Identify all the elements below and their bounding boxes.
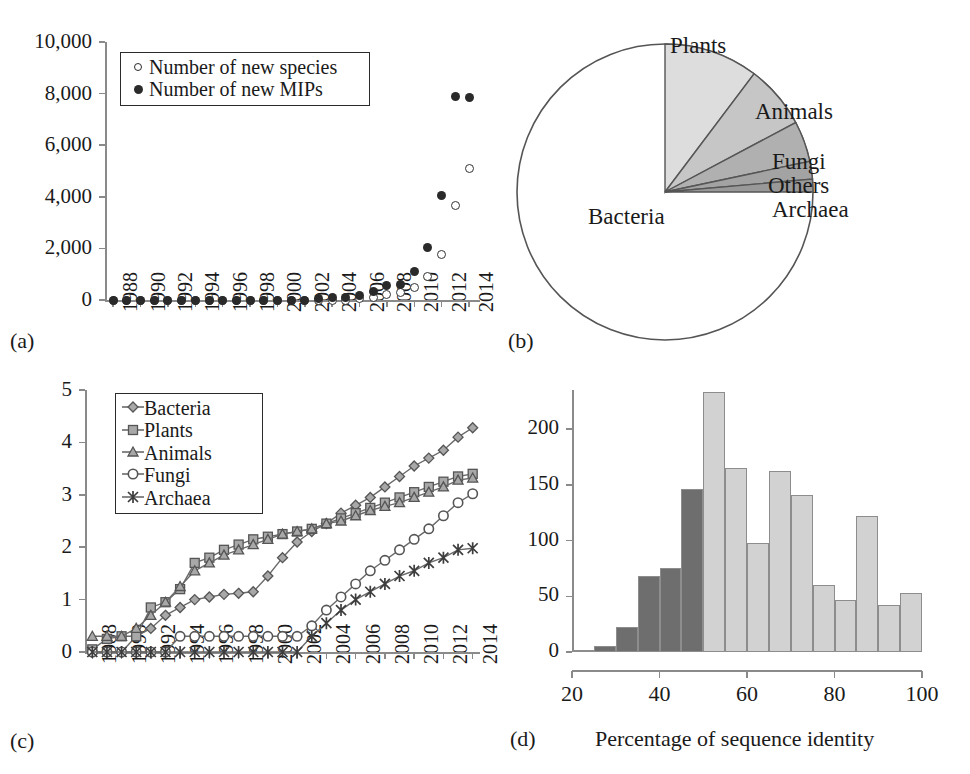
panel-a-point-mips: [341, 293, 350, 302]
panel-a-point-mips: [150, 296, 159, 305]
square-marker-glyph: [129, 425, 138, 434]
panel-a-point-mips: [369, 287, 378, 296]
panel-a-scatter: 02,0004,0006,0008,00010,000 198819901992…: [0, 0, 500, 370]
panel-a-point-mips: [109, 296, 118, 305]
panel-c-marker-bacteria: [424, 453, 434, 463]
panel-c-marker-fungi: [249, 632, 258, 641]
panel-c-legend: BacteriaPlantsAnimalsFungiArchaea: [115, 393, 263, 514]
panel-a-y-tick-label: 8,000: [0, 83, 92, 104]
panel-c-marker-fungi: [453, 498, 462, 507]
panel-c-marker-fungi: [307, 621, 316, 630]
panel-a-y-tick: [99, 144, 105, 146]
panel-a-point-species: [437, 250, 446, 259]
panel-a-point-mips: [205, 296, 214, 305]
panel-c-legend-label: Archaea: [144, 487, 211, 509]
panel-d-bar: [681, 489, 703, 652]
panel-c-marker-archaea: [365, 586, 375, 598]
panel-c-marker-archaea: [395, 570, 405, 582]
panel-a-point-mips: [259, 296, 268, 305]
panel-c-marker-bacteria: [468, 423, 478, 433]
panel-c-marker-archaea: [321, 617, 331, 629]
panel-c-marker-plants: [132, 632, 141, 641]
panel-a-point-mips: [465, 93, 474, 102]
panel-d-bar: [660, 568, 682, 652]
panel-a-y-tick-label: 6,000: [0, 134, 92, 155]
panel-c-legend-row: Bacteria: [122, 397, 254, 419]
panel-a-x-tick: [468, 301, 470, 307]
panel-c-marker-fungi: [205, 632, 214, 641]
panel-d-y-tick-label: 0: [500, 640, 559, 661]
panel-a-x-tick: [414, 301, 416, 307]
panel-c-y-tick-label: 5: [0, 379, 72, 400]
panel-a-point-species: [451, 201, 460, 210]
panel-a-x-tick-label: 1996: [230, 272, 250, 312]
panel-d-bar: [856, 516, 878, 652]
panel-b-label-fungi: Fungi: [772, 150, 826, 173]
panel-d-bar: [791, 495, 813, 652]
panel-c-marker-fungi: [336, 592, 345, 601]
panel-c-marker-bacteria: [365, 492, 375, 502]
panel-a-y-tick-label: 10,000: [0, 31, 92, 52]
star-glyph: [122, 488, 144, 506]
panel-d-bar: [572, 650, 594, 652]
panel-d-bar: [616, 627, 638, 652]
star-icon: [122, 488, 144, 508]
panel-d-histogram: 050100150200 20406080100 Percentage of s…: [500, 380, 970, 774]
square-icon: [122, 421, 144, 441]
panel-c-legend-label: Plants: [144, 419, 193, 441]
panel-a-y-tick-label: 2,000: [0, 237, 92, 258]
panel-c-marker-fungi: [468, 489, 477, 498]
panel-a-letter: (a): [10, 330, 34, 352]
panel-c-marker-archaea: [409, 565, 419, 577]
panel-b-label-animals: Animals: [755, 100, 833, 123]
panel-a-point-mips: [232, 296, 241, 305]
panel-d-bar: [638, 576, 660, 652]
diamond-marker-glyph: [128, 402, 138, 412]
circle-icon: [122, 465, 144, 485]
panel-b-letter: (b): [508, 330, 534, 352]
panel-c-marker-fungi: [263, 632, 272, 641]
panel-d-bar: [725, 468, 747, 652]
diamond-icon: [122, 398, 144, 418]
panel-d-y-tick-label: 200: [500, 417, 559, 438]
panel-c-marker-archaea: [307, 630, 317, 642]
panel-c-marker-fungi: [322, 605, 331, 614]
panel-a-point-mips: [423, 243, 432, 252]
panel-a-x-tick-label: 2000: [284, 272, 304, 312]
panel-a-y-axis-line: [105, 42, 107, 300]
panel-c-marker-fungi: [234, 632, 243, 641]
panel-d-y-tick-label: 150: [500, 473, 559, 494]
panel-a-point-mips: [246, 296, 255, 305]
panel-b-label-plants: Plants: [670, 34, 726, 57]
panel-a-x-tick-label: 1994: [202, 272, 222, 312]
panel-c-marker-fungi: [351, 579, 360, 588]
panel-c-legend-label: Animals: [144, 442, 212, 464]
panel-d-x-tick: [921, 671, 923, 678]
panel-d-x-axis-title: Percentage of sequence identity: [595, 728, 874, 750]
panel-c-marker-fungi: [424, 524, 433, 533]
panel-d-bar: [747, 543, 769, 652]
panel-c-marker-bacteria: [234, 588, 244, 598]
diamond-glyph: [122, 398, 144, 416]
panel-a-y-tick: [99, 41, 105, 43]
panel-c-marker-archaea: [438, 552, 448, 564]
panel-a-x-tick: [386, 301, 388, 307]
panel-c-marker-bacteria: [190, 595, 200, 605]
panel-a-x-tick-label: 1998: [257, 272, 277, 312]
panel-c-marker-fungi: [380, 556, 389, 565]
panel-a-point-species: [410, 283, 419, 292]
panel-d-bar: [703, 392, 725, 652]
panel-a-point-mips: [382, 281, 391, 290]
panel-a-legend-row: Number of new species: [127, 56, 361, 78]
panel-a-point-mips: [451, 92, 460, 101]
panel-c-marker-bacteria: [175, 602, 185, 612]
panel-c-line: 012345 198819901992199419961998200020022…: [0, 380, 500, 774]
panel-d-bar: [878, 605, 900, 652]
panel-a-point-mips: [122, 296, 131, 305]
panel-d-letter: (d): [510, 728, 536, 750]
panel-c-marker-archaea: [336, 604, 346, 616]
open-circle-icon: [127, 57, 149, 77]
panel-a-y-tick: [99, 248, 105, 250]
panel-a-x-tick-label: 1992: [175, 272, 195, 312]
panel-d-x-tick-label: 40: [630, 683, 690, 705]
